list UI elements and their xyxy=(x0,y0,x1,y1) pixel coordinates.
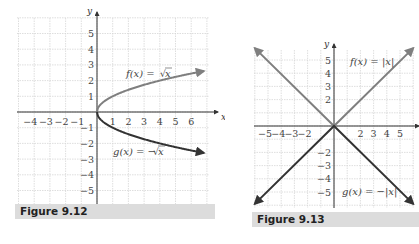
svg-text:x: x xyxy=(158,146,164,157)
svg-text:−4: −4 xyxy=(271,128,285,139)
svg-text:−5: −5 xyxy=(317,187,331,198)
svg-text:−4: −4 xyxy=(80,169,94,180)
svg-text:2: 2 xyxy=(357,128,363,139)
label-f: f(x) = xyxy=(125,68,155,79)
svg-text:1: 1 xyxy=(88,91,94,102)
svg-text:3: 3 xyxy=(88,59,94,70)
svg-text:−2: −2 xyxy=(317,147,331,158)
svg-text:3: 3 xyxy=(141,116,147,127)
curve-g xyxy=(255,126,413,204)
curve-f xyxy=(255,48,413,126)
label-g: g(x) = −|x| xyxy=(342,186,397,198)
svg-text:−4: −4 xyxy=(23,116,37,127)
svg-text:4: 4 xyxy=(88,44,94,55)
label-f: f(x) = |x| xyxy=(349,56,394,68)
svg-text:5: 5 xyxy=(88,28,94,39)
svg-text:x: x xyxy=(221,112,225,122)
svg-text:2: 2 xyxy=(125,116,131,127)
svg-text:−3: −3 xyxy=(317,160,331,171)
svg-text:5: 5 xyxy=(325,55,331,66)
svg-text:−2: −2 xyxy=(80,138,94,149)
svg-text:−3: −3 xyxy=(80,154,94,165)
svg-text:−2: −2 xyxy=(298,128,312,139)
chart-sqrt: xy−4−3−2−112345654321−1−2−3−4−5f(x) = √x… xyxy=(0,0,225,215)
svg-text:−5: −5 xyxy=(258,128,272,139)
svg-text:−2: −2 xyxy=(55,116,69,127)
svg-text:2: 2 xyxy=(325,94,331,105)
svg-text:4: 4 xyxy=(384,128,390,139)
grid xyxy=(254,50,414,208)
figure-caption: Figure 9.13 xyxy=(252,212,419,227)
svg-text:1: 1 xyxy=(110,116,116,127)
svg-text:2: 2 xyxy=(88,75,94,86)
svg-text:3: 3 xyxy=(325,81,331,92)
figure-caption: Figure 9.12 xyxy=(15,204,215,219)
svg-text:−3: −3 xyxy=(284,128,298,139)
svg-text:−1: −1 xyxy=(80,122,94,133)
svg-text:3: 3 xyxy=(371,128,377,139)
svg-text:y: y xyxy=(323,39,330,49)
svg-text:−4: −4 xyxy=(317,173,331,184)
svg-text:6: 6 xyxy=(188,116,194,127)
label-g: g(x) = − xyxy=(113,146,156,157)
svg-text:x: x xyxy=(165,68,171,79)
svg-text:5: 5 xyxy=(172,116,178,127)
svg-text:−5: −5 xyxy=(80,185,94,196)
svg-text:4: 4 xyxy=(325,68,331,79)
svg-text:5: 5 xyxy=(397,128,403,139)
svg-text:4: 4 xyxy=(157,116,163,127)
svg-text:y: y xyxy=(86,6,93,16)
figure-9-12: xy−4−3−2−112345654321−1−2−3−4−5f(x) = √x… xyxy=(0,0,225,244)
svg-text:−3: −3 xyxy=(39,116,53,127)
grid xyxy=(17,18,209,205)
